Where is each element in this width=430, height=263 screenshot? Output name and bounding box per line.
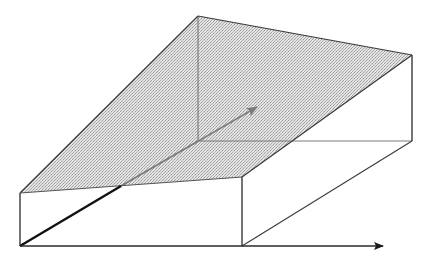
vector-base-thick	[20, 186, 121, 246]
sloped-plane	[20, 16, 412, 193]
diagram-canvas	[0, 0, 430, 263]
box-plane-diagram	[0, 0, 430, 263]
